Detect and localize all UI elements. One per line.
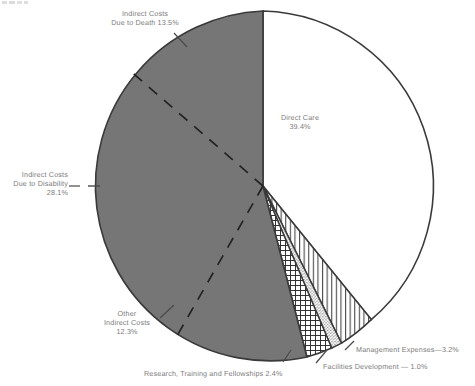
label-indirect-costs-disability-line2: Due to Disability xyxy=(0,179,68,188)
label-direct-care-line2: 39.4% xyxy=(255,122,345,131)
label-facilities-development: Facilities Development — 1.0% xyxy=(323,362,428,371)
pie-chart-graphic xyxy=(0,0,475,386)
label-other-indirect-costs: Other Indirect Costs 12.3% xyxy=(90,309,164,337)
label-indirect-costs-disability-line3: 28.1% xyxy=(0,188,68,197)
label-direct-care: Direct Care 39.4% xyxy=(255,113,345,131)
label-indirect-costs-disability-line1: Indirect Costs xyxy=(0,170,68,179)
label-indirect-costs-death: Indirect Costs Due to Death 13.5% xyxy=(80,9,210,27)
label-indirect-costs-death-line1: Indirect Costs xyxy=(80,9,210,18)
chart-canvas: Indirect Costs Due to Death 13.5% Indire… xyxy=(0,0,475,386)
label-indirect-costs-death-line2: Due to Death 13.5% xyxy=(80,18,210,27)
leader-management-expenses xyxy=(345,341,354,350)
label-indirect-costs-disability: Indirect Costs Due to Disability 28.1% xyxy=(0,170,68,198)
label-management-expenses: Management Expenses—3.2% xyxy=(356,345,459,354)
label-other-indirect-costs-line2: Indirect Costs xyxy=(90,318,164,327)
label-other-indirect-costs-line3: 12.3% xyxy=(90,327,164,336)
label-other-indirect-costs-line1: Other xyxy=(90,309,164,318)
label-research-training-fellowships: Research, Training and Fellowships 2.4% xyxy=(144,369,282,378)
label-direct-care-line1: Direct Care xyxy=(255,113,345,122)
